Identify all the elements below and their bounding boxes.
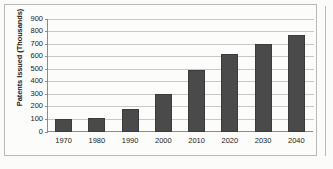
bar-slot	[213, 19, 246, 132]
bar-1970[interactable]	[55, 119, 72, 132]
bar-2020[interactable]	[221, 54, 238, 132]
y-tick-label: 800	[17, 27, 43, 35]
scanned-page: Patents Issued (Thousands) 0100200300400…	[0, 0, 333, 169]
page-edge-rule	[325, 6, 326, 156]
x-tick-label-1980: 1980	[80, 136, 113, 145]
bar-slot	[114, 19, 147, 132]
y-tick-label: 600	[17, 52, 43, 60]
y-tick-label: 900	[17, 15, 43, 23]
y-tick-label: 400	[17, 77, 43, 85]
x-tick-label-1990: 1990	[114, 136, 147, 145]
x-axis-labels: 19701980199020002010202020302040	[47, 136, 313, 148]
x-tick-label-2010: 2010	[180, 136, 213, 145]
x-tick-label-2000: 2000	[147, 136, 180, 145]
bar-slot	[247, 19, 280, 132]
x-tick-label-2040: 2040	[280, 136, 313, 145]
bar-slot	[180, 19, 213, 132]
bar-1990[interactable]	[122, 109, 139, 132]
bar-slot	[280, 19, 313, 132]
y-tick-label: 700	[17, 40, 43, 48]
bar-2040[interactable]	[288, 35, 305, 132]
x-tick-label-2020: 2020	[213, 136, 246, 145]
y-tick-label: 200	[17, 102, 43, 110]
y-tick-label: 100	[17, 115, 43, 123]
bar-2030[interactable]	[255, 44, 272, 132]
bar-1980[interactable]	[88, 118, 105, 132]
bar-slot	[147, 19, 180, 132]
y-tick-label: 0	[17, 128, 43, 136]
chart-figure: Patents Issued (Thousands) 0100200300400…	[4, 4, 317, 156]
bar-slot	[80, 19, 113, 132]
bar-slot	[47, 19, 80, 132]
bar-2010[interactable]	[188, 70, 205, 132]
y-tick-label: 500	[17, 65, 43, 73]
bars-layer	[47, 19, 313, 132]
x-tick-label-1970: 1970	[47, 136, 80, 145]
y-tick-label: 300	[17, 90, 43, 98]
x-tick-label-2030: 2030	[247, 136, 280, 145]
bar-2000[interactable]	[155, 94, 172, 132]
